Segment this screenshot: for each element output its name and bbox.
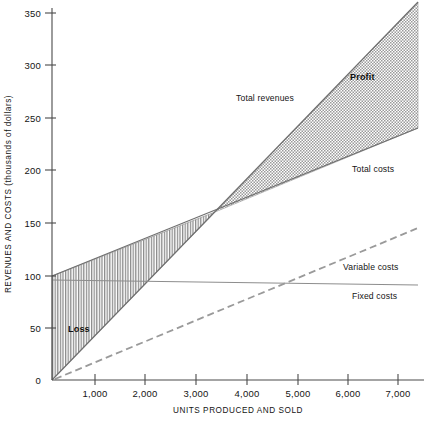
total-revenues-label: Total revenues bbox=[236, 93, 294, 103]
y-tick-label-300: 300 bbox=[25, 60, 41, 71]
x-tick-label-2000: 2,000 bbox=[133, 388, 158, 399]
x-tick-label-4000: 4,000 bbox=[235, 388, 260, 399]
chart-canvas: 350 300 250 200 150 100 50 0 1,000 2,000… bbox=[0, 0, 426, 423]
total-costs-line bbox=[52, 128, 418, 276]
y-axis-title: REVENUES AND COSTS (thousands of dollars… bbox=[4, 95, 13, 293]
x-tick-label-3000: 3,000 bbox=[184, 388, 209, 399]
total-costs-label: Total costs bbox=[352, 164, 394, 174]
x-axis-title: UNITS PRODUCED AND SOLD bbox=[173, 406, 303, 415]
fixed-costs-label: Fixed costs bbox=[352, 291, 397, 301]
total-revenues-line bbox=[52, 2, 418, 380]
x-tick-label-7000: 7,000 bbox=[386, 388, 411, 399]
x-tick-label-5000: 5,000 bbox=[286, 388, 311, 399]
y-tick-label-350: 350 bbox=[25, 8, 41, 19]
profit-label: Profit bbox=[350, 72, 375, 82]
y-tick-label-0: 0 bbox=[36, 375, 41, 386]
break-even-chart: 350 300 250 200 150 100 50 0 1,000 2,000… bbox=[0, 0, 426, 423]
x-tick-label-6000: 6,000 bbox=[336, 388, 361, 399]
y-tick-label-250: 250 bbox=[25, 113, 41, 124]
y-tick-label-200: 200 bbox=[25, 165, 41, 176]
y-tick-label-150: 150 bbox=[25, 218, 41, 229]
x-tick-label-1000: 1,000 bbox=[83, 388, 108, 399]
y-tick-label-100: 100 bbox=[25, 271, 41, 282]
loss-label: Loss bbox=[68, 324, 90, 334]
variable-costs-label: Variable costs bbox=[343, 262, 398, 272]
y-tick-label-50: 50 bbox=[30, 323, 41, 334]
